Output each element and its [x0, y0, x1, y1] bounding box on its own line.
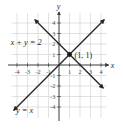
intersection-point-label: (1, 1)	[75, 51, 93, 60]
y-axis-label: y	[56, 2, 61, 11]
intersection-point-marker	[67, 52, 72, 57]
x-axis-label: x	[110, 61, 115, 70]
y-tick-label: 2	[52, 40, 55, 47]
x-tick-label: 1	[68, 68, 71, 75]
y-tick-label: 1	[52, 51, 55, 58]
x-tick-label: -4	[14, 68, 19, 75]
equation-label-y-equals-x: y = x	[15, 106, 34, 115]
graph-figure: -4 -3 -2 -1 1 2 3 4 4 3 2 1 -1 -2 -3 -4 …	[0, 0, 123, 131]
x-tick-label: -3	[25, 68, 30, 75]
y-tick-label: 3	[52, 30, 55, 37]
y-tick-label: -2	[50, 82, 55, 89]
x-tick-label: 4	[99, 68, 102, 75]
y-tick-label: -3	[50, 93, 55, 100]
y-tick-label: -4	[50, 103, 55, 110]
equation-label-x-plus-y: x + y = 2	[10, 38, 42, 47]
coordinate-plane-plot: -4 -3 -2 -1 1 2 3 4 4 3 2 1 -1 -2 -3 -4 …	[0, 0, 123, 131]
x-tick-label: 2	[78, 68, 81, 75]
x-tick-label: -2	[35, 68, 40, 75]
y-tick-label: 4	[52, 19, 55, 26]
